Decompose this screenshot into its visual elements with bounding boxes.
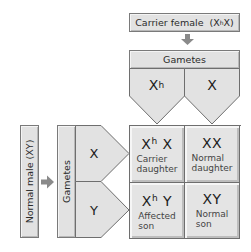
offspring-phenotype: Normalson [196,209,229,229]
male-parent-label: Normal male (XY) [23,125,36,238]
female-gamete-xh: Xh [129,76,184,94]
offspring-cell-affected-son: Xh Y Affectedson [129,182,185,239]
offspring-genotype: Xh X [141,134,172,152]
male-gametes-label: Gametes [60,125,73,238]
female-gamete-x: X [184,76,240,94]
offspring-cell-normal-daughter: XX Normaldaughter [184,125,240,183]
female-parent-label: Carrier female (Xh X) [130,14,239,31]
arrow-right-icon [41,175,55,189]
offspring-genotype: XX [202,136,222,151]
offspring-genotype: Xh Y [142,191,172,209]
male-gamete-y: Y [77,202,111,218]
offspring-phenotype: Affectedson [138,211,176,231]
male-gamete-x: X [77,145,111,161]
offspring-cell-carrier-daughter: Xh X Carrierdaughter [129,125,185,183]
offspring-phenotype: Normaldaughter [191,153,232,173]
offspring-phenotype: Carrierdaughter [136,154,177,174]
female-parent-box: Carrier female (Xh X) [129,13,240,32]
arrow-down-icon [181,34,194,46]
female-gametes-label: Gametes [130,51,239,68]
offspring-genotype: XY [202,192,221,207]
female-gametes-header: Gametes [129,50,240,69]
offspring-cell-normal-son: XY Normalson [184,182,240,239]
male-gamete-shapes [75,125,131,239]
